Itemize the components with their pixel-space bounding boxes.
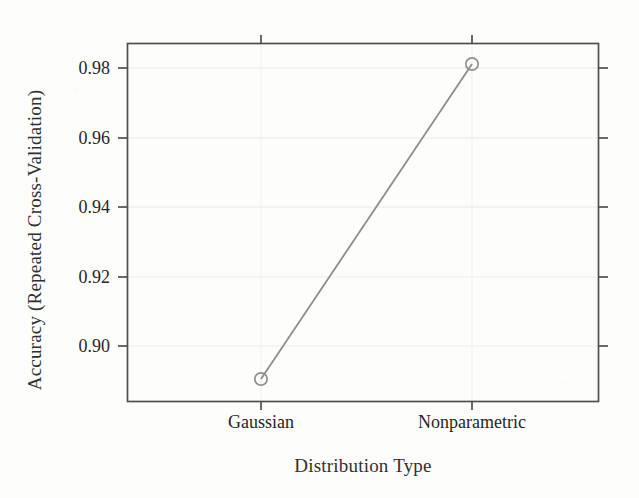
y-tick-label-4: 0.90: [48, 337, 110, 355]
y-tick-label-2: 0.94: [48, 198, 110, 216]
y-axis-ticks: [118, 68, 128, 346]
y-tick-label-1: 0.96: [48, 129, 110, 147]
y-tick-label-3: 0.92: [48, 268, 110, 286]
x-axis-title: Distribution Type: [127, 455, 599, 477]
x-tick-label-gaussian: Gaussian: [228, 412, 294, 433]
data-line-accuracy: [261, 64, 472, 379]
y-tick-label-0: 0.98: [48, 59, 110, 77]
gridlines: [128, 44, 598, 401]
y-axis-title: Accuracy (Repeated Cross-Validation): [17, 60, 53, 420]
chart-figure: 0.98 0.96 0.94 0.92 0.90 Gaussian Nonpar…: [0, 0, 639, 498]
plot-frame: [128, 44, 599, 402]
x-tick-label-nonparametric: Nonparametric: [418, 412, 526, 433]
y-axis-ticks-right: [598, 68, 608, 346]
